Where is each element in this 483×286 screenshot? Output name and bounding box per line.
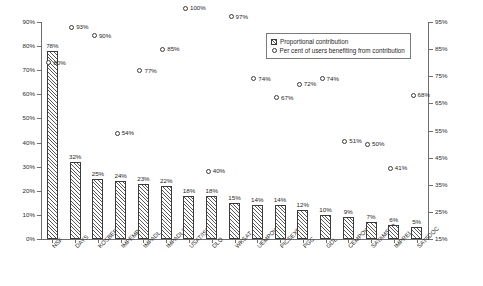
legend-label-markers: Per cent of users benefiting from contri… xyxy=(280,47,405,54)
left-axis-tick xyxy=(37,143,41,144)
bar xyxy=(388,225,399,239)
right-axis-tick-label: 85% xyxy=(435,46,475,52)
data-point-marker xyxy=(206,169,211,174)
data-point-marker xyxy=(160,47,165,52)
bar xyxy=(411,227,422,239)
left-axis-tick-label: 80% xyxy=(3,43,35,49)
data-point-value-label: 100% xyxy=(190,5,206,11)
chart-root: Proportional contribution Per cent of us… xyxy=(0,0,483,286)
bar xyxy=(252,205,263,239)
right-axis-tick-label: 15% xyxy=(435,236,475,242)
right-axis-tick-label: 35% xyxy=(435,182,475,188)
data-point-marker xyxy=(320,76,325,81)
left-axis-tick-label: 90% xyxy=(3,19,35,25)
bar xyxy=(70,162,81,239)
right-axis-tick-label: 25% xyxy=(435,209,475,215)
right-axis-tick xyxy=(429,131,433,132)
data-point-marker xyxy=(388,166,393,171)
bar xyxy=(161,186,172,239)
data-point-value-label: 54% xyxy=(122,130,134,136)
data-point-marker xyxy=(274,95,279,100)
open-circle-icon xyxy=(272,48,277,53)
left-axis-tick xyxy=(37,239,41,240)
hatched-square-icon xyxy=(271,39,277,45)
data-point-marker xyxy=(229,14,234,19)
bar xyxy=(115,181,126,239)
bar xyxy=(229,203,240,239)
right-axis-tick-label: 55% xyxy=(435,128,475,134)
left-axis-tick-label: 20% xyxy=(3,188,35,194)
data-point-value-label: 74% xyxy=(258,76,270,82)
bar xyxy=(206,196,217,239)
right-axis-tick-label: 95% xyxy=(435,19,475,25)
left-axis-tick xyxy=(37,94,41,95)
data-point-value-label: 80% xyxy=(53,60,65,66)
data-point-value-label: 41% xyxy=(395,165,407,171)
data-point-marker xyxy=(342,139,347,144)
data-point-value-label: 90% xyxy=(99,33,111,39)
left-axis-tick xyxy=(37,167,41,168)
left-axis-tick xyxy=(37,118,41,119)
bar xyxy=(343,217,354,239)
right-axis-tick-label: 45% xyxy=(435,155,475,161)
right-axis-tick xyxy=(429,103,433,104)
bar xyxy=(138,184,149,239)
data-point-marker xyxy=(365,142,370,147)
left-axis-tick-label: 60% xyxy=(3,91,35,97)
data-point-value-label: 74% xyxy=(327,76,339,82)
bar-value-label: 32% xyxy=(61,154,89,160)
data-point-value-label: 40% xyxy=(213,168,225,174)
bar xyxy=(92,179,103,239)
left-axis-tick xyxy=(37,191,41,192)
right-axis-tick xyxy=(429,76,433,77)
right-axis-tick xyxy=(429,212,433,213)
bar xyxy=(320,215,331,239)
left-axis-tick-label: 0% xyxy=(3,236,35,242)
bar xyxy=(297,210,308,239)
data-point-value-label: 51% xyxy=(349,138,361,144)
bar xyxy=(275,205,286,239)
chart-legend: Proportional contribution Per cent of us… xyxy=(266,33,411,59)
data-point-value-label: 50% xyxy=(372,141,384,147)
data-point-value-label: 77% xyxy=(144,68,156,74)
legend-entry-markers: Per cent of users benefiting from contri… xyxy=(271,46,405,55)
data-point-value-label: 67% xyxy=(281,95,293,101)
data-point-value-label: 72% xyxy=(304,81,316,87)
data-point-marker xyxy=(411,93,416,98)
bar xyxy=(366,222,377,239)
data-point-value-label: 85% xyxy=(167,46,179,52)
data-point-marker xyxy=(297,82,302,87)
bar-value-label: 78% xyxy=(38,43,66,49)
left-axis-line xyxy=(41,22,42,240)
right-axis-tick-label: 65% xyxy=(435,100,475,106)
right-axis-tick xyxy=(429,185,433,186)
data-point-marker xyxy=(251,76,256,81)
data-point-marker xyxy=(92,33,97,38)
data-point-value-label: 68% xyxy=(418,92,430,98)
bar xyxy=(47,51,58,239)
right-axis-tick xyxy=(429,49,433,50)
left-axis-tick-label: 70% xyxy=(3,67,35,73)
left-axis-tick-label: 50% xyxy=(3,115,35,121)
data-point-marker xyxy=(183,6,188,11)
data-point-value-label: 93% xyxy=(76,24,88,30)
left-axis-tick-label: 30% xyxy=(3,164,35,170)
legend-label-bars: Proportional contribution xyxy=(280,38,348,45)
bar xyxy=(183,196,194,239)
left-axis-tick-label: 40% xyxy=(3,140,35,146)
data-point-marker xyxy=(115,131,120,136)
right-axis-tick-label: 75% xyxy=(435,73,475,79)
right-axis-tick xyxy=(429,22,433,23)
data-point-value-label: 97% xyxy=(236,14,248,20)
left-axis-tick xyxy=(37,215,41,216)
bar-value-label: 5% xyxy=(403,219,431,225)
right-axis-tick xyxy=(429,158,433,159)
left-axis-tick-label: 10% xyxy=(3,212,35,218)
left-axis-tick xyxy=(37,70,41,71)
left-axis-tick xyxy=(37,22,41,23)
legend-entry-bars: Proportional contribution xyxy=(271,37,405,46)
bar-value-label: 22% xyxy=(152,178,180,184)
data-point-marker xyxy=(69,25,74,30)
data-point-marker xyxy=(137,68,142,73)
bar-value-label: 18% xyxy=(198,188,226,194)
